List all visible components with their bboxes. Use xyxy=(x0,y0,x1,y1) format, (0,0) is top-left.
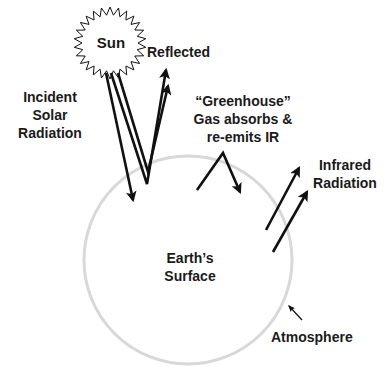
greenhouse-line-3: re-emits IR xyxy=(183,128,303,146)
atmosphere-label: Atmosphere xyxy=(271,328,353,346)
infrared-line-1: Infrared xyxy=(304,156,386,174)
reflected-label: Reflected xyxy=(147,43,210,61)
greenhouse-line-1: “Greenhouse” xyxy=(183,92,303,110)
infrared-radiation-label: Infrared Radiation xyxy=(304,156,386,192)
reflected-arrow-inner xyxy=(118,73,168,172)
infrared-line-2: Radiation xyxy=(304,174,386,192)
earth-surface-label: Earth’s Surface xyxy=(148,249,232,285)
incident-line-1: Incident xyxy=(4,88,96,106)
atmosphere-pointer-arrow xyxy=(289,306,302,320)
sun-label: Sun xyxy=(91,34,131,52)
earth-line-2: Surface xyxy=(148,267,232,285)
greenhouse-line-2: Gas absorbs & xyxy=(183,110,303,128)
incident-line-2: Solar xyxy=(4,106,96,124)
incident-line-3: Radiation xyxy=(4,124,96,142)
incident-solar-radiation-label: Incident Solar Radiation xyxy=(4,88,96,142)
earth-line-1: Earth’s xyxy=(148,249,232,267)
greenhouse-gas-label: “Greenhouse” Gas absorbs & re-emits IR xyxy=(183,92,303,146)
